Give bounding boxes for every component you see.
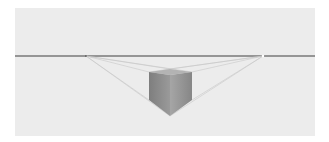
- left-vanishing-point: [85, 55, 87, 57]
- right-vanishing-point: [262, 55, 264, 57]
- cube-left-face: [149, 72, 170, 116]
- cube-right-face: [170, 72, 192, 116]
- cube: [149, 69, 192, 116]
- perspective-cube-drawing: [0, 0, 329, 142]
